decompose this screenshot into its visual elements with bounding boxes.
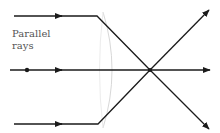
focal-point	[148, 68, 152, 72]
ray-diagram-svg	[0, 0, 220, 133]
label-line-1: Parallel	[12, 28, 51, 40]
converging-lens-diagram: Parallel rays	[0, 0, 220, 133]
object-point-dot	[25, 68, 29, 72]
parallel-rays-label: Parallel rays	[12, 28, 51, 52]
label-line-2: rays	[12, 40, 51, 52]
axis-ray	[10, 68, 210, 72]
